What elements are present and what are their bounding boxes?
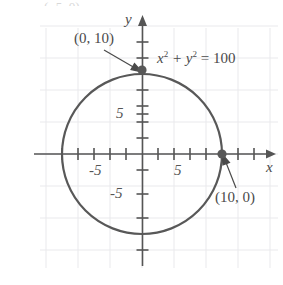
axis-ticks bbox=[62, 42, 254, 250]
marked-points bbox=[137, 65, 226, 158]
axes bbox=[34, 15, 276, 266]
y-tick-label-5: 5 bbox=[116, 106, 124, 121]
circle-equation-label: x2 + y2 = 100 bbox=[157, 50, 235, 66]
x-tick-label-neg5: -5 bbox=[89, 163, 102, 178]
circle-graph-figure: (−5, 0) bbox=[0, 0, 283, 285]
equation-equals-100: = 100 bbox=[197, 50, 235, 66]
point-label-10-0: (10, 0) bbox=[215, 190, 255, 205]
equation-x: x bbox=[157, 50, 164, 66]
x-axis-label: x bbox=[266, 160, 273, 175]
point-10-0 bbox=[217, 149, 226, 158]
y-axis-label: y bbox=[125, 12, 132, 27]
coordinate-plane bbox=[0, 0, 283, 285]
x-tick-label-5: 5 bbox=[174, 163, 182, 178]
point-0-10 bbox=[137, 65, 146, 74]
y-tick-label-neg5: -5 bbox=[110, 186, 123, 201]
point-label-0-10: (0, 10) bbox=[74, 31, 114, 46]
equation-plus-y: + y bbox=[168, 50, 192, 66]
